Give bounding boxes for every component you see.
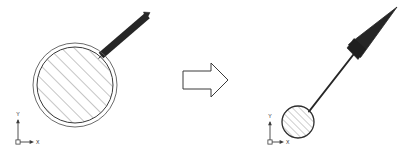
axis-origin-marker-right — [268, 140, 272, 144]
right-figure-group — [282, 7, 397, 138]
axis-y-label-right: Y — [268, 113, 272, 119]
axis-y-label-left: Y — [16, 111, 20, 117]
axis-indicator-left: Y X — [16, 111, 40, 145]
axis-x-label-right: X — [286, 139, 290, 145]
technical-drawing: Y X Y X — [0, 0, 404, 158]
right-stem — [309, 50, 357, 112]
axis-x-arrowhead-left — [30, 140, 34, 144]
transformation-arrow — [183, 63, 228, 97]
axis-origin-marker-left — [16, 140, 20, 144]
left-figure-group — [33, 12, 150, 127]
axis-y-arrowhead-right — [268, 121, 272, 125]
right-cone — [347, 7, 397, 60]
axis-y-arrowhead-left — [16, 119, 20, 123]
axis-x-arrowhead-right — [280, 140, 284, 144]
axis-x-label-left: X — [36, 139, 40, 145]
left-stem — [99, 12, 151, 59]
diagram-canvas: Y X Y X — [0, 0, 404, 158]
